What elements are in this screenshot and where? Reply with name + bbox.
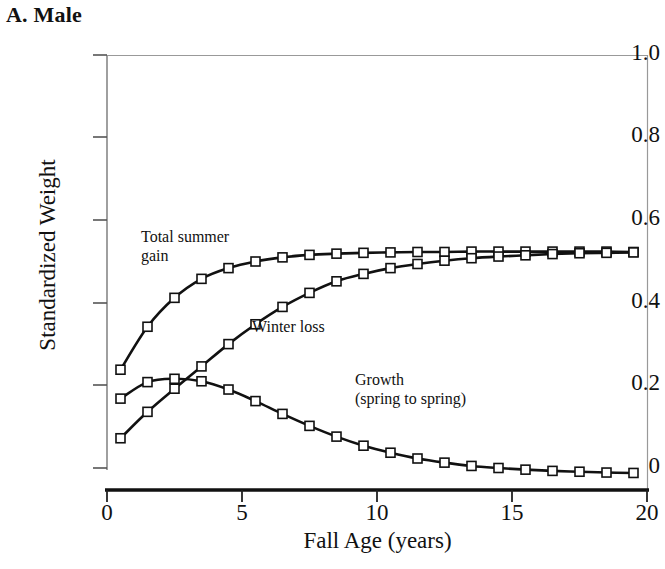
- y-tick-label-2: 0.8: [582, 122, 660, 148]
- data-point-marker: [413, 259, 422, 268]
- x-tick-label-4: 15: [482, 500, 542, 526]
- data-point-marker: [494, 464, 503, 473]
- data-point-marker: [575, 249, 584, 258]
- data-point-marker: [440, 458, 449, 467]
- data-series-layer: [116, 247, 638, 477]
- data-point-marker: [170, 384, 179, 393]
- data-point-marker: [386, 264, 395, 273]
- data-point-marker: [305, 250, 314, 259]
- annotation-total-summer-gain: Total summer gain: [141, 228, 229, 266]
- axis-lines: [93, 55, 649, 502]
- data-point-marker: [629, 248, 638, 257]
- data-point-marker: [224, 385, 233, 394]
- data-point-marker: [143, 322, 152, 331]
- x-tick-label-2: 5: [212, 500, 272, 526]
- series-2: [116, 248, 638, 443]
- annotation-growth-line1: Growth: [355, 371, 466, 390]
- data-point-marker: [548, 250, 557, 259]
- data-point-marker: [143, 378, 152, 387]
- data-point-marker: [170, 293, 179, 302]
- data-point-marker: [224, 340, 233, 349]
- data-point-marker: [386, 448, 395, 457]
- data-point-marker: [332, 249, 341, 258]
- x-tick-label-1: 0: [77, 500, 137, 526]
- data-point-marker: [197, 362, 206, 371]
- y-tick-label-1: 1.0: [582, 40, 660, 66]
- data-point-marker: [116, 394, 125, 403]
- data-point-marker: [305, 288, 314, 297]
- y-tick-label-6: 0: [582, 453, 660, 479]
- data-point-marker: [143, 407, 152, 416]
- data-point-marker: [494, 252, 503, 261]
- data-point-marker: [359, 441, 368, 450]
- data-point-marker: [440, 256, 449, 265]
- data-point-marker: [413, 454, 422, 463]
- data-point-marker: [413, 248, 422, 257]
- data-point-marker: [197, 274, 206, 283]
- data-point-marker: [197, 377, 206, 386]
- data-point-marker: [170, 374, 179, 383]
- annotation-summer-line1: Total summer: [141, 228, 229, 247]
- data-point-marker: [440, 248, 449, 257]
- data-point-marker: [467, 254, 476, 263]
- data-point-marker: [359, 248, 368, 257]
- x-tick-label-5: 20: [617, 500, 665, 526]
- y-tick-label-3: 0.6: [582, 205, 660, 231]
- annotation-growth-line2: (spring to spring): [355, 390, 466, 409]
- data-point-marker: [521, 251, 530, 260]
- y-axis-title: Standardized Weight: [30, 20, 66, 490]
- data-point-marker: [116, 365, 125, 374]
- data-point-marker: [359, 269, 368, 278]
- series-line: [121, 252, 634, 370]
- data-point-marker: [251, 257, 260, 266]
- y-tick-label-5: 0.2: [582, 370, 660, 396]
- series-1: [116, 247, 638, 374]
- data-point-marker: [602, 248, 611, 257]
- data-point-marker: [386, 248, 395, 257]
- annotation-summer-line2: gain: [141, 247, 229, 266]
- data-point-marker: [251, 397, 260, 406]
- data-point-marker: [116, 434, 125, 443]
- data-point-marker: [467, 461, 476, 470]
- data-point-marker: [278, 302, 287, 311]
- annotation-growth: Growth (spring to spring): [355, 371, 466, 409]
- y-tick-label-4: 0.4: [582, 288, 660, 314]
- data-point-marker: [332, 277, 341, 286]
- x-tick-label-3: 10: [347, 500, 407, 526]
- data-point-marker: [521, 465, 530, 474]
- data-point-marker: [332, 432, 341, 441]
- annotation-winter-loss: Winter loss: [252, 318, 325, 337]
- data-point-marker: [278, 253, 287, 262]
- data-point-marker: [548, 466, 557, 475]
- data-point-marker: [278, 409, 287, 418]
- data-point-marker: [305, 421, 314, 430]
- x-axis-title: Fall Age (years): [105, 528, 650, 554]
